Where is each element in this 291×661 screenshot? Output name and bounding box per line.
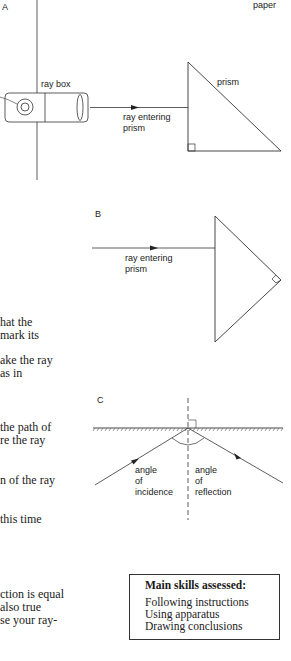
ray-box-icon: [5, 93, 88, 122]
ray-entering-label-b: ray entering prism: [125, 253, 173, 275]
angle-of-incidence-label: angle of incidence: [135, 465, 173, 498]
prism-b-icon: [215, 216, 281, 342]
diagram-c: [93, 398, 283, 520]
body-text-line: se your ray-: [0, 614, 57, 627]
body-text-line: this time: [0, 513, 42, 526]
skill-item: Drawing conclusions: [145, 620, 279, 632]
diagram-a: [0, 0, 281, 180]
body-text-line: mark its: [0, 329, 39, 342]
ray-box-label: ray box: [41, 79, 71, 90]
diagram-b-label: B: [95, 209, 101, 220]
skill-item: Using apparatus: [145, 608, 279, 620]
skills-title: Main skills assessed:: [145, 579, 279, 592]
body-text-line: n of the ray: [0, 474, 55, 487]
paper-label: paper: [253, 0, 276, 11]
angle-of-reflection-label: angle of reflection: [195, 465, 232, 498]
skills-box: Main skills assessed: Following instruct…: [129, 574, 280, 640]
diagram-c-label: C: [97, 395, 104, 406]
diagram-a-label: A: [2, 2, 8, 13]
body-text-line: as in: [0, 367, 22, 380]
prism-label: prism: [217, 77, 239, 88]
diagram-canvas: [0, 0, 291, 661]
ray-entering-label-a: ray entering prism: [123, 112, 171, 134]
prism-a-icon: [188, 62, 281, 151]
diagram-b: [92, 216, 281, 342]
body-text-line: re the ray: [0, 434, 45, 447]
skill-item: Following instructions: [145, 596, 279, 608]
